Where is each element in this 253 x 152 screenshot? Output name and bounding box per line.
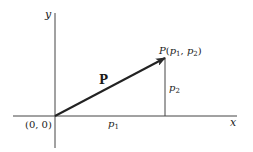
p1-sub: 1 xyxy=(114,123,118,131)
origin-label: (0, 0) xyxy=(25,120,52,130)
vector-arrow xyxy=(55,58,165,116)
point-name: P xyxy=(159,45,166,56)
p2-label: p2 xyxy=(169,83,180,95)
p2-sub: 2 xyxy=(175,87,179,95)
x-axis-label: x xyxy=(230,117,236,128)
p1-label: p1 xyxy=(108,119,119,131)
point-label: P(p1, p2) xyxy=(159,46,202,58)
point-close-paren: ) xyxy=(198,45,202,56)
y-axis-label: y xyxy=(45,9,51,20)
vector-label: P xyxy=(99,74,108,86)
vector-diagram: y x (0, 0) P P(p1, p2) p2 p1 xyxy=(0,0,253,152)
